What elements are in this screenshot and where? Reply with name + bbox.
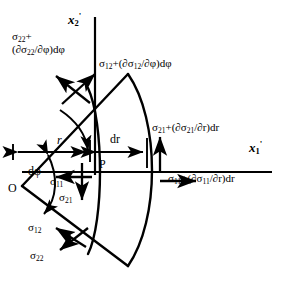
sigma11-plus-label: σ11+(∂σ11/∂r)dr (168, 173, 235, 186)
sigma22-plus-arrow (56, 76, 90, 103)
radius-label: r (57, 134, 62, 147)
radius-dimension (13, 140, 90, 162)
sigma22-label: σ22 (30, 250, 43, 263)
sigma21-plus-label: σ21+(∂σ21/∂r)dr (152, 122, 219, 135)
sigma12-label: σ12 (28, 222, 41, 235)
sigma22-plus-label: σ22+ (∂σ22/∂φ)dφ (12, 31, 65, 56)
sigma11-label: σ11 (50, 176, 63, 189)
sigma12-plus-label: σ12+(∂σ12/∂φ)dφ (99, 58, 172, 71)
dphi-label: dφ (28, 165, 41, 178)
x1-prime-axis-label: x1' (249, 140, 262, 156)
sigma12-plus-arrow (62, 74, 95, 104)
polar-stress-element-figure: x2' x1' σ22+ (∂σ22/∂φ)dφ σ12+(∂σ12/∂φ)dφ… (0, 0, 281, 285)
element-outline (22, 74, 152, 266)
point-p-label: P (99, 158, 106, 171)
sigma21-label: σ21 (59, 192, 72, 205)
dr-label: dr (110, 133, 120, 146)
x2-prime-axis-label: x2' (68, 12, 81, 28)
origin-label: O (8, 182, 17, 195)
